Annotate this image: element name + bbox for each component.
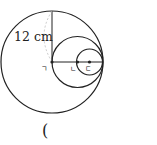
circles-diagram: 12 cm ㄱ ㄴ ㄷ ( bbox=[0, 0, 157, 145]
center-point-n bbox=[76, 60, 79, 63]
center-point-d bbox=[88, 60, 91, 63]
point-label-n: ㄴ bbox=[70, 65, 76, 73]
point-label-g: ㄱ bbox=[41, 65, 47, 73]
center-point-g bbox=[50, 60, 53, 63]
point-label-d: ㄷ bbox=[85, 65, 91, 73]
radius-label: 12 cm bbox=[14, 29, 53, 44]
answer-paren: ( bbox=[42, 121, 48, 140]
